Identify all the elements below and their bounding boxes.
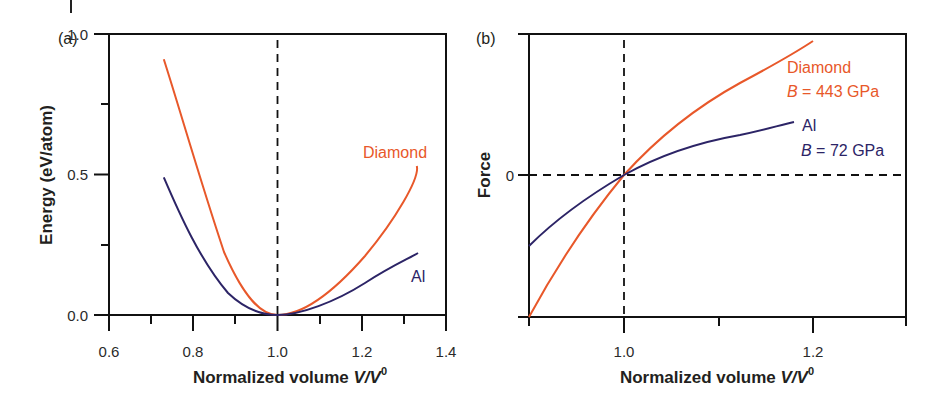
xtick-label: 1.4 (436, 343, 457, 360)
x-axis-title-var: V/V (781, 368, 810, 387)
ytick-label: 0.5 (67, 166, 88, 183)
x-axis-title: Normalized volume V/V0 (193, 365, 387, 387)
panel-b-label: (b) (476, 30, 496, 47)
al-curve (164, 177, 418, 315)
diamond-b-value: = 443 GPa (798, 83, 879, 100)
xtick-label: 1.0 (267, 343, 288, 360)
xtick-label: 0.8 (183, 343, 204, 360)
panel-a-frame (109, 34, 446, 315)
al-curve (529, 122, 794, 246)
xtick-label: 0.6 (99, 343, 120, 360)
x-axis-title-text: Normalized volume (193, 368, 354, 387)
xtick-label: 1.2 (803, 343, 824, 360)
al-b-value: = 72 GPa (812, 142, 885, 159)
panel-b: (b) 0 1.0 1.2 Force Normalized volume V/… (475, 30, 906, 387)
ytick-label: 1.0 (67, 26, 88, 43)
x-axis-title: Normalized volume V/V0 (620, 365, 814, 387)
xtick-label: 1.0 (614, 343, 635, 360)
al-label: Al (411, 268, 425, 285)
x-axis-title-var: V/V (354, 368, 383, 387)
y-axis-title: Energy (eV/atom) (37, 105, 56, 245)
x-axis-title-sup: 0 (808, 365, 814, 377)
figure: (a) 1.0 0.5 0.0 0.6 0.8 1.0 1.2 1.4 Ener… (0, 0, 932, 405)
diamond-curve (529, 41, 813, 317)
diamond-b-var: B (787, 83, 798, 100)
panel-a: (a) 1.0 0.5 0.0 0.6 0.8 1.0 1.2 1.4 Ener… (37, 26, 456, 387)
x-axis-title-text: Normalized volume (620, 368, 781, 387)
diamond-label: Diamond (787, 59, 851, 76)
xtick-label: 1.2 (352, 343, 373, 360)
x-axis-title-sup: 0 (381, 365, 387, 377)
y-axis-title: Force (475, 152, 494, 198)
al-b-var: B (801, 142, 812, 159)
diamond-curve (164, 59, 417, 315)
diamond-bulk-modulus: B = 443 GPa (787, 83, 879, 100)
ytick-label: 0.0 (67, 307, 88, 324)
al-label: Al (802, 117, 816, 134)
al-bulk-modulus: B = 72 GPa (801, 142, 884, 159)
ytick-label: 0 (506, 167, 514, 184)
diamond-label: Diamond (363, 144, 427, 161)
